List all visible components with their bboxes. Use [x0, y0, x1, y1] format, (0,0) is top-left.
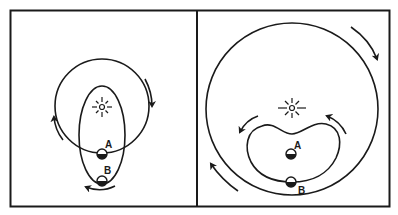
curved-arrow-icon	[54, 117, 63, 140]
curved-arrow-icon	[351, 27, 377, 59]
right-panel	[206, 23, 378, 195]
orbit-diagram: A B A B	[0, 0, 398, 215]
curved-arrow-icon	[86, 186, 115, 190]
left-panel	[54, 59, 152, 190]
frame	[11, 10, 390, 207]
label-a: A	[294, 140, 301, 151]
curved-arrow-icon	[211, 164, 238, 191]
sun-icon	[278, 98, 306, 118]
label-b: B	[104, 165, 111, 176]
label-a: A	[105, 139, 112, 150]
sun-icon	[92, 97, 112, 117]
body-b	[97, 176, 107, 186]
body-b	[286, 177, 296, 187]
label-b: B	[298, 185, 305, 196]
body-a	[97, 149, 107, 159]
